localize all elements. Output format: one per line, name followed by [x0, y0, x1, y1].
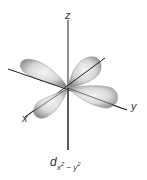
- z-axis-label: z: [65, 10, 71, 21]
- orbital-label: dx2 − y2: [50, 156, 81, 172]
- orbital-diagram: [0, 0, 147, 180]
- lobe-front-left: [34, 88, 68, 118]
- x-axis-label: x: [22, 113, 28, 124]
- y-axis-label: y: [131, 101, 137, 112]
- lobe-back-left: [20, 59, 68, 88]
- lobe-back-right: [68, 57, 101, 88]
